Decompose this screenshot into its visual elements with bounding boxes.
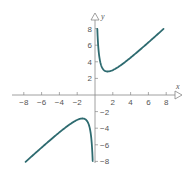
y-tick-label: −2	[100, 108, 110, 117]
y-tick-label: 6	[88, 41, 93, 50]
x-tick-label: −4	[55, 98, 65, 107]
ticks: −8−6−4−224688642−2−4−6−8	[19, 25, 169, 167]
y-tick-label: 4	[88, 58, 93, 67]
y-axis-arrow-icon	[91, 13, 99, 20]
function-graph: −8−6−4−224688642−2−4−6−8 x y	[0, 0, 187, 174]
x-tick-label: 8	[164, 98, 169, 107]
function-curve	[26, 118, 93, 161]
x-tick-label: −8	[19, 98, 29, 107]
y-tick-label: −8	[100, 157, 110, 166]
function-curve	[97, 29, 163, 72]
y-tick-label: −6	[100, 141, 110, 150]
x-tick-label: 2	[111, 98, 116, 107]
x-axis-arrow-icon	[175, 91, 182, 99]
y-tick-label: 8	[88, 25, 93, 34]
x-tick-label: 6	[146, 98, 151, 107]
x-axis-label: x	[175, 82, 180, 91]
y-tick-label: 2	[88, 74, 93, 83]
x-tick-label: −6	[37, 98, 47, 107]
x-tick-label: −2	[73, 98, 83, 107]
x-tick-label: 4	[128, 98, 133, 107]
y-axis-label: y	[100, 12, 105, 21]
y-tick-label: −4	[100, 124, 110, 133]
